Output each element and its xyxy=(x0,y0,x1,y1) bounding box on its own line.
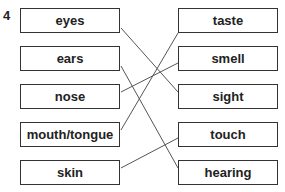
line-nose-smell xyxy=(121,63,178,92)
left-item-ears[interactable]: ears xyxy=(20,46,120,71)
right-item-sight[interactable]: sight xyxy=(178,84,278,109)
right-item-hearing[interactable]: hearing xyxy=(178,160,278,185)
right-item-smell[interactable]: smell xyxy=(178,46,278,71)
left-item-skin[interactable]: skin xyxy=(20,160,120,185)
left-item-mouth-tongue[interactable]: mouth/tongue xyxy=(20,122,120,147)
left-item-eyes[interactable]: eyes xyxy=(20,8,120,33)
left-item-nose[interactable]: nose xyxy=(20,84,120,109)
right-item-taste[interactable]: taste xyxy=(178,8,278,33)
right-item-touch[interactable]: touch xyxy=(178,122,278,147)
